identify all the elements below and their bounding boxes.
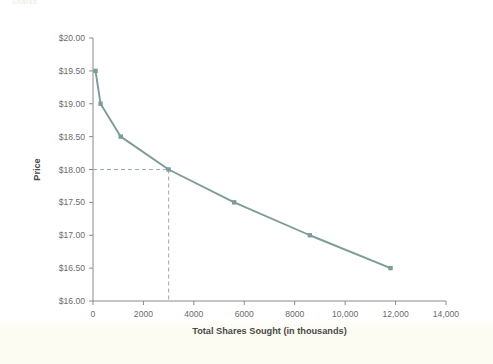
svg-text:2000: 2000 [134,309,153,319]
svg-text:$18.50: $18.50 [59,132,86,142]
x-axis-tick-labels: 0200040006000800010,00012,00014,000 [91,309,460,319]
x-axis-title: Total Shares Sought (in thousands) [192,326,347,336]
svg-text:4000: 4000 [184,309,203,319]
svg-text:6000: 6000 [235,309,254,319]
svg-text:$17.50: $17.50 [59,197,86,207]
svg-text:8000: 8000 [285,309,304,319]
svg-text:$16.50: $16.50 [59,263,86,273]
svg-text:$19.00: $19.00 [59,99,86,109]
demand-curve-line [96,71,391,268]
svg-text:$16.00: $16.00 [59,296,86,306]
x-axis-tick-marks [93,301,446,305]
y-axis-tick-marks [89,38,93,301]
y-axis-tick-labels: $16.00$16.50$17.00$17.50$18.00$18.50$19.… [59,33,86,306]
y-axis-title: Price [32,158,42,180]
svg-text:12,000: 12,000 [382,309,409,319]
svg-text:$20.00: $20.00 [59,33,86,43]
svg-text:$19.50: $19.50 [59,66,86,76]
svg-text:$17.00: $17.00 [59,230,86,240]
svg-text:0: 0 [91,309,96,319]
svg-text:$18.00: $18.00 [59,165,86,175]
svg-text:10,000: 10,000 [332,309,359,319]
demand-curve-chart: $16.00$16.50$17.00$17.50$18.00$18.50$19.… [0,0,493,364]
svg-text:14,000: 14,000 [433,309,460,319]
